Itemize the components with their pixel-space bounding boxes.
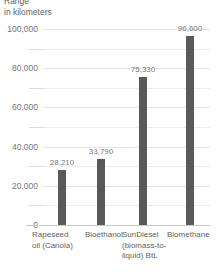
bar bbox=[139, 77, 147, 225]
chart-title-line-2: in kilometers bbox=[4, 7, 204, 18]
gridline-minor bbox=[43, 49, 210, 50]
x-axis-category-label: Rapeseedoil (Canola) bbox=[32, 230, 84, 251]
x-axis-line bbox=[26, 225, 210, 226]
gridline-major bbox=[43, 107, 210, 108]
y-axis-tick-label: 40,000 bbox=[0, 142, 38, 152]
gridline-minor bbox=[43, 205, 210, 206]
x-axis-category-line: Biomethane bbox=[167, 230, 221, 241]
bar-value-label: 96,600 bbox=[160, 24, 220, 33]
y-axis-tick-label: 80,000 bbox=[0, 63, 38, 73]
chart-title: Range in kilometers bbox=[4, 0, 204, 18]
bar-value-label: 75,330 bbox=[113, 65, 173, 74]
gridline-minor bbox=[43, 127, 210, 128]
gridline-minor bbox=[43, 88, 210, 89]
bar-value-label: 33,790 bbox=[71, 147, 131, 156]
plot-area: 28,21033,79075,33096,600 bbox=[43, 29, 210, 225]
y-tick-stub bbox=[29, 205, 43, 206]
gridline-major bbox=[43, 186, 210, 187]
x-axis-category-line: oil (Canola) bbox=[32, 241, 84, 252]
y-axis-tick-label: 60,000 bbox=[0, 102, 38, 112]
x-axis-category-label: SunDiesel(biomass-to-liquid) BtL bbox=[122, 230, 167, 262]
x-axis-category-line: SunDiesel bbox=[122, 230, 167, 241]
x-axis-category-line: (biomass-to- bbox=[122, 241, 167, 252]
y-tick-stub bbox=[29, 127, 43, 128]
x-axis-category-line: liquid) BtL bbox=[122, 251, 167, 262]
x-axis-category-line: Rapeseed bbox=[32, 230, 84, 241]
bar bbox=[186, 36, 194, 225]
chart-title-line-1: Range bbox=[4, 0, 204, 7]
y-axis-tick-label: 20,000 bbox=[0, 181, 38, 191]
y-tick-stub bbox=[29, 88, 43, 89]
bar bbox=[58, 170, 66, 225]
y-tick-stub bbox=[29, 49, 43, 50]
bar bbox=[97, 159, 105, 225]
y-axis-tick-label: 100,000 bbox=[0, 24, 38, 34]
bar-value-label: 28,210 bbox=[32, 158, 92, 167]
bar-chart: Range in kilometers 020,00040,00060,0008… bbox=[0, 0, 221, 274]
x-axis-category-label: Biomethane bbox=[167, 230, 221, 241]
